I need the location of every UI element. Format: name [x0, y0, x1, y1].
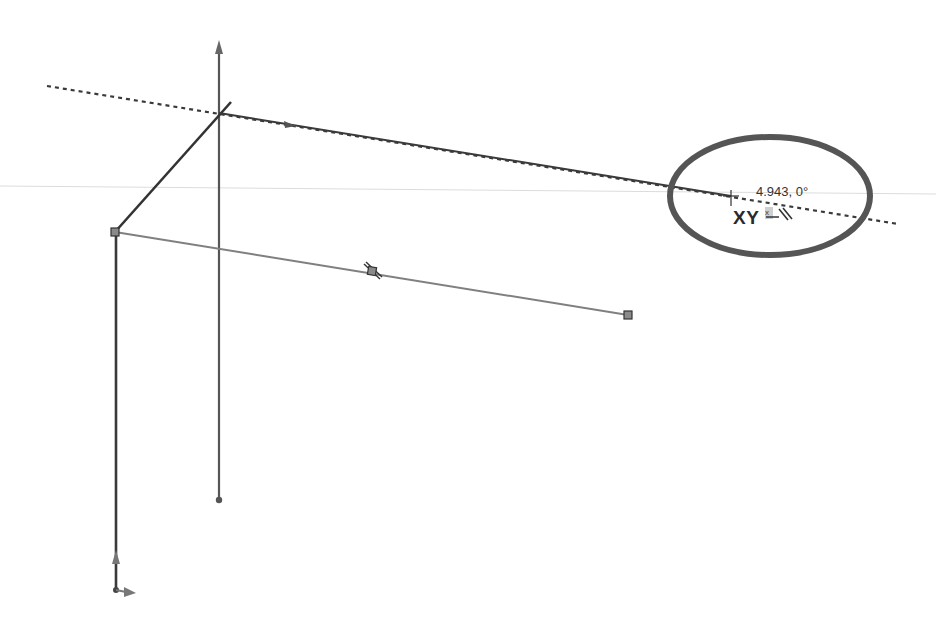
midpoint-marker[interactable] — [364, 262, 382, 279]
along-x-parallel-icon: x — [765, 207, 792, 220]
diagonal-sketch-line[interactable] — [115, 102, 231, 232]
plane-label: XY — [733, 207, 759, 229]
svg-text:x: x — [765, 208, 769, 217]
axis-arrow-up-icon — [215, 40, 223, 54]
active-sketch-line[interactable] — [219, 113, 731, 196]
sketch-viewport[interactable]: x — [0, 0, 936, 621]
origin-arrow-right-icon — [124, 587, 136, 597]
vertical-line-endpoint[interactable] — [216, 497, 222, 503]
left-corner-endpoint[interactable] — [111, 228, 119, 236]
right-endpoint[interactable] — [624, 311, 632, 319]
origin-arrow-up-icon — [112, 550, 120, 564]
dimension-readout: 4.943, 0° — [756, 184, 808, 199]
